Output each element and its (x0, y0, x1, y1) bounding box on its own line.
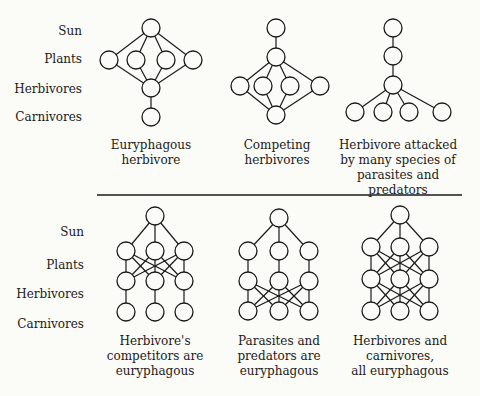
label-sun-bottom: Sun (4, 225, 84, 239)
species-node (433, 103, 451, 121)
species-node (142, 19, 160, 37)
caption-line: Herbivores and (335, 334, 465, 349)
species-node (384, 47, 402, 65)
label-carnivores-bottom: Carnivores (4, 317, 84, 331)
species-node (420, 302, 438, 320)
species-node (391, 270, 409, 288)
caption-line: Competing (222, 138, 332, 153)
caption-line: predators are (219, 349, 339, 364)
species-node (267, 19, 285, 37)
species-node (175, 242, 193, 260)
species-node (146, 242, 164, 260)
species-node (311, 77, 329, 95)
caption-herbivore-attacked: Herbivore attacked by many species of pa… (333, 138, 463, 198)
caption-line: competitors are (95, 349, 215, 364)
label-carnivores-top: Carnivores (2, 110, 82, 124)
species-node (184, 51, 202, 69)
caption-line: Euryphagous (96, 138, 206, 153)
caption-line: herbivores (222, 153, 332, 168)
species-node (391, 206, 409, 224)
caption-line: euryphagous (95, 364, 215, 379)
species-node (142, 79, 160, 97)
caption-line: parasites and (333, 168, 463, 183)
label-plants-top: Plants (2, 52, 82, 66)
caption-line: Herbivore attacked (333, 138, 463, 153)
caption-line: euryphagous (219, 364, 339, 379)
species-node (267, 48, 285, 66)
species-node (391, 302, 409, 320)
species-node (384, 76, 402, 94)
label-herbivores-top: Herbivores (2, 82, 82, 96)
species-node (420, 238, 438, 256)
species-node (374, 103, 392, 121)
caption-line: by many species of (333, 153, 463, 168)
species-node (175, 272, 193, 290)
species-node (300, 272, 318, 290)
species-node (117, 242, 135, 260)
caption-line: all euryphagous (335, 364, 465, 379)
label-sun-top: Sun (2, 24, 82, 38)
species-node (254, 77, 272, 95)
species-node (346, 103, 364, 121)
species-node (100, 51, 118, 69)
species-node (146, 207, 164, 225)
caption-line: Herbivore's (95, 334, 215, 349)
species-node (175, 303, 193, 321)
species-node (362, 238, 380, 256)
species-node (384, 19, 402, 37)
species-node (127, 51, 145, 69)
caption-line: carnivores, (335, 349, 465, 364)
species-node (146, 303, 164, 321)
caption-line: herbivore (96, 153, 206, 168)
food-web-figure: Sun Plants Herbivores Carnivores Sun Pla… (0, 0, 480, 396)
species-node (270, 242, 288, 260)
species-node (300, 242, 318, 260)
species-node (157, 51, 175, 69)
caption-competitors-euryphagous: Herbivore's competitors are euryphagous (95, 334, 215, 379)
species-node (270, 302, 288, 320)
caption-line: predators (333, 183, 463, 198)
caption-line: Parasites and (219, 334, 339, 349)
caption-parasites-euryphagous: Parasites and predators are euryphagous (219, 334, 339, 379)
species-node (400, 103, 418, 121)
species-node (420, 270, 438, 288)
species-node (362, 302, 380, 320)
species-node (362, 270, 380, 288)
label-plants-bottom: Plants (4, 258, 84, 272)
species-node (270, 272, 288, 290)
species-node (239, 302, 257, 320)
caption-competing-herbivores: Competing herbivores (222, 138, 332, 168)
species-node (270, 209, 288, 227)
species-node (281, 77, 299, 95)
species-node (146, 272, 164, 290)
species-node (239, 272, 257, 290)
species-node (300, 302, 318, 320)
species-node (142, 108, 160, 126)
label-herbivores-bottom: Herbivores (4, 287, 84, 301)
species-node (391, 238, 409, 256)
species-node (267, 106, 285, 124)
caption-all-euryphagous: Herbivores and carnivores, all euryphago… (335, 334, 465, 379)
species-node (117, 272, 135, 290)
species-node (239, 242, 257, 260)
species-node (117, 303, 135, 321)
species-node (231, 77, 249, 95)
caption-euryphagous-herbivore: Euryphagous herbivore (96, 138, 206, 168)
